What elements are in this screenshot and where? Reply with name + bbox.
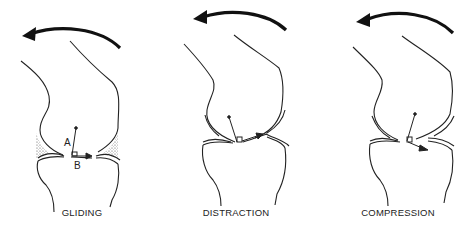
caption-distraction: DISTRACTION [161, 207, 311, 218]
vector-label-b: B [74, 160, 81, 171]
rotation-arrow-icon [356, 13, 453, 33]
force-vectors [72, 127, 92, 159]
figure-gliding: A B GLIDING [0, 0, 156, 237]
figure-compression: COMPRESSION [310, 0, 466, 237]
caption-gliding: GLIDING [8, 207, 156, 218]
force-vectors [228, 116, 263, 142]
distraction-joint-drawing [155, 0, 315, 237]
rotation-arrow-icon [193, 10, 286, 30]
lower-bone-outline [202, 134, 289, 206]
gliding-joint-drawing: A B [0, 0, 156, 237]
upper-bone-outline [184, 35, 285, 142]
upper-bone-outline [353, 36, 454, 140]
compression-joint-drawing [310, 0, 470, 237]
lower-bone-outline [369, 138, 454, 206]
force-vectors [407, 113, 428, 151]
vector-label-a: A [64, 137, 71, 148]
caption-compression: COMPRESSION [330, 207, 466, 218]
rotation-arrow-icon [22, 27, 120, 48]
figure-distraction: DISTRACTION [155, 0, 311, 237]
